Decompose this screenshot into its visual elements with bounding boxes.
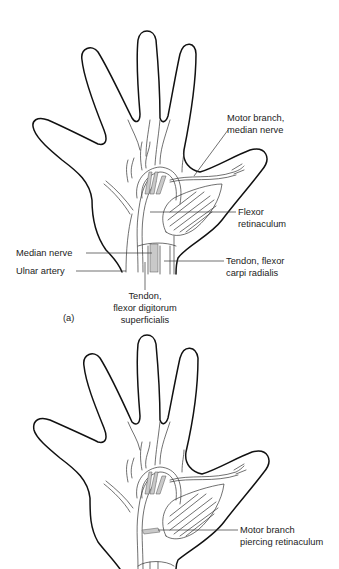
label-ulnar-artery: Ulnar artery (16, 265, 65, 277)
hand-outline (34, 335, 269, 569)
leader-motor-branch (194, 130, 228, 176)
label-median-nerve: Median nerve (16, 247, 72, 259)
label-flexor-retinaculum: Flexor retinaculum (238, 206, 286, 230)
label-motor-branch-median-nerve: Motor branch, median nerve (227, 112, 284, 136)
hand-outline (33, 31, 267, 274)
thenar-muscle (163, 184, 222, 235)
label-tendon-flexor-carpi-radialis: Tendon, flexor carpi radialis (226, 255, 284, 279)
label-motor-branch-piercing-retinaculum: Motor branch piercing retinaculum (240, 524, 323, 548)
motor-branch-nerve (170, 166, 244, 180)
motor-branch-piercing (142, 528, 160, 534)
figure-b: Motor branch piercing retinaculum (0, 280, 339, 569)
tendon-fds (150, 244, 158, 272)
figure-a: Motor branch, median nerve Flexor retina… (0, 0, 339, 290)
